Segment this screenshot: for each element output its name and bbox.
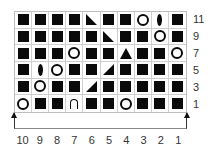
chart-cell	[101, 12, 118, 29]
black-square-icon	[120, 81, 131, 92]
chart-cell	[152, 62, 169, 79]
knitting-chart-grid	[14, 11, 187, 113]
black-square-icon	[18, 48, 29, 59]
chart-cell	[135, 62, 152, 79]
chart-cell	[118, 95, 135, 112]
column-label: 5	[101, 134, 118, 146]
black-square-icon	[120, 14, 131, 25]
black-square-icon	[154, 98, 165, 109]
column-label: 4	[118, 134, 135, 146]
arch-icon	[70, 99, 78, 109]
chart-cell	[118, 12, 135, 29]
column-label: 3	[135, 134, 152, 146]
black-square-icon	[103, 81, 114, 92]
chart-cell	[15, 29, 32, 46]
row-label: 5	[193, 64, 199, 76]
black-square-icon	[172, 64, 183, 75]
open-circle-icon	[17, 98, 29, 110]
chart-cell	[32, 95, 49, 112]
chart-cell	[15, 79, 32, 96]
row-label: 3	[193, 81, 199, 93]
chart-cell	[15, 95, 32, 112]
column-label: 9	[31, 134, 48, 146]
black-square-icon	[137, 48, 148, 59]
chart-cell	[83, 29, 100, 46]
chart-cell	[66, 95, 83, 112]
chart-cell	[49, 79, 66, 96]
chart-cell	[101, 95, 118, 112]
black-square-icon	[137, 64, 148, 75]
chart-cell	[169, 45, 186, 62]
chart-cell	[32, 45, 49, 62]
column-label: 2	[152, 134, 169, 146]
black-square-icon	[86, 31, 97, 42]
black-square-icon	[35, 48, 46, 59]
right-arrow-icon	[184, 112, 190, 118]
chart-cell	[66, 79, 83, 96]
open-circle-icon	[34, 80, 46, 92]
black-square-icon	[154, 48, 165, 59]
chart-cell	[83, 12, 100, 29]
black-square-icon	[172, 31, 183, 42]
black-square-icon	[69, 31, 80, 42]
chart-cell	[83, 95, 100, 112]
black-square-icon	[86, 48, 97, 59]
chart-cell	[152, 95, 169, 112]
open-circle-icon	[68, 47, 80, 59]
open-circle-icon	[120, 98, 132, 110]
chart-cell	[49, 95, 66, 112]
black-square-icon	[172, 14, 183, 25]
chart-cell	[118, 62, 135, 79]
black-square-icon	[120, 64, 131, 75]
chart-cell	[169, 12, 186, 29]
black-square-icon	[172, 98, 183, 109]
black-square-icon	[69, 81, 80, 92]
chart-cell	[135, 12, 152, 29]
chart-cell	[83, 62, 100, 79]
open-circle-icon	[51, 64, 63, 76]
open-circle-icon	[154, 30, 166, 42]
right-triangle-right-lean-icon	[86, 81, 97, 92]
black-square-icon	[18, 31, 29, 42]
black-square-icon	[103, 98, 114, 109]
chart-cell	[169, 79, 186, 96]
chart-cell	[32, 79, 49, 96]
chart-cell	[101, 79, 118, 96]
row-label: 1	[193, 98, 199, 110]
chart-cell	[32, 29, 49, 46]
chart-cell	[49, 45, 66, 62]
black-square-icon	[18, 14, 29, 25]
chart-cell	[66, 45, 83, 62]
chart-cell	[66, 29, 83, 46]
chart-cell	[101, 29, 118, 46]
black-square-icon	[137, 81, 148, 92]
black-square-icon	[137, 98, 148, 109]
column-label: 1	[170, 134, 187, 146]
open-circle-icon	[171, 47, 183, 59]
chart-cell	[32, 12, 49, 29]
chart-cell	[15, 12, 32, 29]
black-square-icon	[18, 64, 29, 75]
vertical-ellipse-icon	[38, 64, 43, 76]
chart-cell	[32, 62, 49, 79]
chart-cell	[169, 29, 186, 46]
black-square-icon	[86, 98, 97, 109]
chart-cell	[15, 45, 32, 62]
black-square-icon	[18, 81, 29, 92]
chart-cell	[135, 45, 152, 62]
chart-cell	[118, 79, 135, 96]
black-square-icon	[103, 48, 114, 59]
black-square-icon	[35, 31, 46, 42]
black-square-icon	[52, 81, 63, 92]
black-square-icon	[35, 14, 46, 25]
chart-cell	[152, 79, 169, 96]
chart-cell	[101, 45, 118, 62]
black-square-icon	[35, 98, 46, 109]
right-triangle-left-lean-icon	[86, 14, 97, 25]
row-label: 7	[193, 47, 199, 59]
repeat-bracket	[14, 113, 187, 129]
chart-cell	[83, 45, 100, 62]
column-label: 7	[66, 134, 83, 146]
chart-cell	[49, 62, 66, 79]
filled-triangle-icon	[120, 48, 132, 59]
